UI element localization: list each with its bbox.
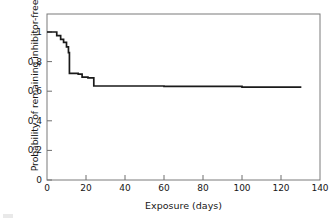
chart-figure: Probability of remaining inhibitor-free …: [0, 0, 334, 222]
survival-curve: [47, 32, 301, 88]
x-axis-ticks: [86, 175, 281, 180]
plot-frame: [47, 14, 320, 180]
plot-area: [0, 0, 334, 222]
y-axis-ticks: [47, 32, 52, 180]
